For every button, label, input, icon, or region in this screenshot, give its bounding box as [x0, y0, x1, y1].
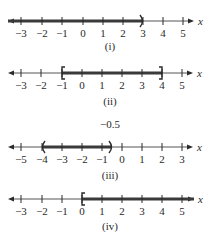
tick-label: 2: [119, 79, 125, 91]
figure-caption: (ii): [103, 95, 117, 108]
tick-label: 3: [139, 205, 145, 217]
tick-label: −3: [56, 153, 68, 165]
tick-label: 4: [160, 27, 166, 39]
tick-label: 4: [159, 79, 165, 91]
left-arrow-icon: [8, 71, 14, 76]
tick-label: 1: [100, 27, 106, 39]
right-arrow-icon: [187, 145, 193, 150]
axis-variable-label: x: [196, 67, 202, 79]
left-arrow-icon: [8, 197, 14, 202]
tick-label: 1: [139, 153, 145, 165]
number-lines-canvas: x−3−2−1012345(i)x−3−2−1012345(ii)x−5−4−3…: [0, 0, 221, 240]
axis-variable-label: x: [196, 141, 202, 153]
tick-label: 5: [180, 27, 186, 39]
number-line-figure: x−3−2−1012345(i)x−3−2−1012345(ii)x−5−4−3…: [0, 0, 221, 240]
tick-label: −1: [56, 205, 68, 217]
tick-label: 1: [99, 205, 105, 217]
tick-label: −2: [36, 27, 48, 39]
tick-label: 5: [179, 79, 185, 91]
number-line-ii: x−3−2−1012345(ii): [8, 67, 202, 109]
left-arrow-icon: [8, 145, 14, 150]
right-arrow-icon: [187, 71, 193, 76]
tick-label: 3: [140, 27, 146, 39]
tick-label: 0: [119, 153, 125, 165]
tick-label: 2: [120, 27, 126, 39]
tick-label: −3: [15, 205, 27, 217]
number-line-iv: x−3−2−1012345(iv): [8, 193, 203, 234]
axis-variable-label: x: [197, 15, 203, 27]
tick-label: 0: [80, 27, 86, 39]
number-line-i: x−3−2−1012345(i): [8, 15, 203, 54]
tick-label: 2: [159, 153, 165, 165]
tick-label: 2: [119, 205, 125, 217]
tick-label: −5: [15, 153, 27, 165]
tick-label: 5: [179, 205, 185, 217]
tick-label: 0: [79, 79, 85, 91]
number-line-iii: x−5−4−3−2−10123−0.5(iii): [8, 118, 202, 182]
axis-variable-label: x: [197, 193, 203, 205]
tick-label: −2: [35, 79, 47, 91]
tick-label: −3: [15, 79, 27, 91]
figure-caption: (iv): [102, 220, 118, 233]
tick-label: 1: [99, 79, 105, 91]
tick-label: −1: [96, 153, 108, 165]
tick-label: −1: [56, 27, 68, 39]
endpoint-value-note: −0.5: [100, 118, 120, 130]
right-arrow-icon: [188, 19, 194, 24]
figure-caption: (i): [105, 40, 116, 53]
tick-label: −1: [56, 79, 68, 91]
figure-caption: (iii): [102, 169, 119, 182]
tick-label: −2: [76, 153, 88, 165]
tick-label: 3: [179, 153, 185, 165]
tick-label: 4: [159, 205, 165, 217]
tick-label: −4: [36, 153, 48, 165]
tick-label: 3: [139, 79, 145, 91]
tick-label: −3: [15, 27, 27, 39]
tick-label: −2: [36, 205, 48, 217]
tick-label: 0: [79, 205, 85, 217]
